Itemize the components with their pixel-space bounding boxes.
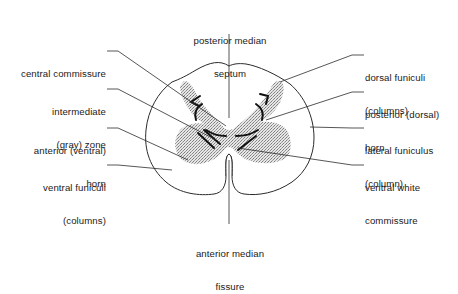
label-line: anterior median (184, 248, 276, 259)
label-line: ventral white (365, 182, 458, 193)
label-anterior-median-fissure: anterior median fissure (184, 226, 276, 294)
label-posterior-median-septum: posterior median septum (184, 13, 276, 101)
label-line: septum (184, 68, 276, 79)
label-line: central commissure (0, 68, 106, 79)
label-line: posterior (dorsal) (365, 109, 458, 120)
label-line: dorsal funiculi (365, 72, 458, 83)
label-line: anterior (ventral) (0, 145, 106, 156)
label-line: posterior median (184, 35, 276, 46)
label-line: (columns) (0, 215, 106, 226)
label-line: commissure (365, 215, 458, 226)
label-ventral-funiculi: ventral funiculi (columns) (0, 160, 106, 248)
label-line: lateral funiculus (365, 145, 458, 156)
label-line: fissure (184, 281, 276, 292)
label-line: ventral funiculi (0, 182, 106, 193)
label-ventral-white-commissure: ventral white commissure (365, 160, 458, 248)
label-line: intermediate (0, 106, 106, 117)
